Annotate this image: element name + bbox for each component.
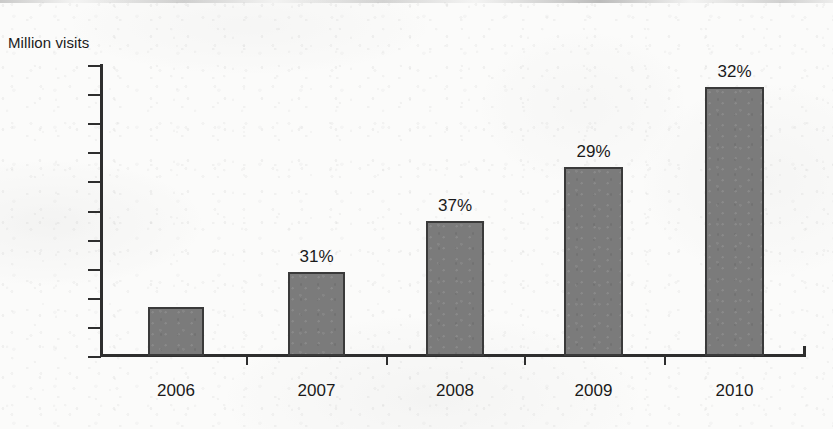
y-axis-tick (88, 356, 101, 358)
bar-texture (428, 223, 482, 354)
y-axis-tick (88, 240, 101, 242)
x-axis-label-2010: 2010 (675, 381, 794, 401)
y-axis-title: Million visits (8, 34, 89, 51)
bar-texture (566, 169, 621, 354)
bar-2007 (288, 272, 345, 356)
x-axis-label-2009: 2009 (534, 381, 653, 401)
bar-2008 (426, 221, 484, 356)
bar-2009 (564, 167, 623, 356)
x-axis-tick (246, 357, 248, 365)
bar-value-label-2009: 29% (544, 142, 643, 162)
bar-2006 (148, 307, 204, 356)
y-axis-tick (88, 65, 101, 67)
bar-value-label-2008: 37% (406, 196, 504, 216)
y-axis-tick (88, 94, 101, 96)
x-axis-tick (524, 357, 526, 365)
y-axis-tick (88, 211, 101, 213)
chart-figure: Million visits 200631%200737%200829%2009… (0, 0, 833, 429)
x-axis-tick (664, 357, 666, 365)
x-axis-tick (386, 357, 388, 365)
bar-texture (150, 309, 202, 354)
y-axis-tick (88, 181, 101, 183)
y-axis-tick (88, 327, 101, 329)
bar-value-label-2007: 31% (268, 247, 365, 267)
x-axis-label-2006: 2006 (118, 381, 234, 401)
y-axis-tick (88, 269, 101, 271)
bar-2010 (705, 87, 764, 356)
bar-texture (707, 89, 762, 354)
y-axis-tick (88, 298, 101, 300)
bar-value-label-2010: 32% (685, 62, 784, 82)
x-axis-label-2007: 2007 (258, 381, 375, 401)
bar-texture (290, 274, 343, 354)
x-axis-end-tick (803, 346, 806, 357)
y-axis-tick (88, 123, 101, 125)
x-axis-label-2008: 2008 (396, 381, 514, 401)
scan-edge-artifact (0, 0, 833, 3)
y-axis-tick (88, 152, 101, 154)
